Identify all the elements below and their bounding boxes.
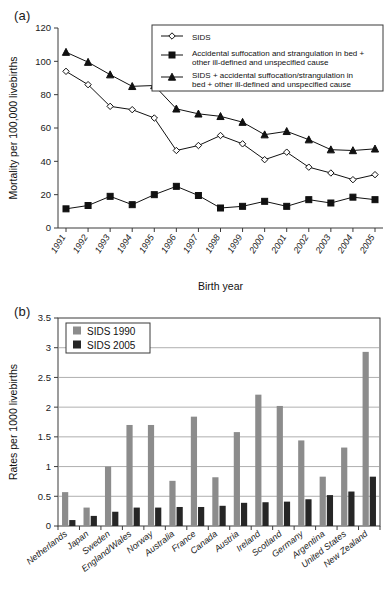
bar-sids-1990 bbox=[191, 417, 197, 526]
panel-a-xtick-label: 2003 bbox=[313, 233, 333, 256]
bar-group bbox=[62, 492, 75, 526]
data-point-marker bbox=[195, 142, 201, 148]
panel-a-xtick-label: 1997 bbox=[181, 232, 201, 255]
legend-item-label: Accidental suffocation and strangulation… bbox=[192, 49, 365, 58]
bar-sids-2005 bbox=[220, 506, 226, 526]
panel-a-xtick-label: 2002 bbox=[291, 233, 311, 256]
legend-item-label: SIDS 1990 bbox=[87, 326, 136, 337]
panel-a-xtick-label: 1996 bbox=[159, 233, 178, 255]
bar-sids-1990 bbox=[126, 425, 132, 526]
bar-sids-1990 bbox=[341, 448, 347, 526]
data-point-marker bbox=[63, 68, 69, 74]
data-point-marker bbox=[218, 205, 224, 211]
data-point-marker bbox=[328, 170, 334, 176]
bar-group bbox=[341, 448, 354, 526]
panel-b-ytick-label: 0 bbox=[46, 520, 51, 531]
bar-sids-2005 bbox=[112, 512, 118, 526]
bar-group bbox=[320, 477, 333, 526]
panel-b-ytick-label: 2 bbox=[46, 402, 51, 413]
data-point-marker bbox=[63, 206, 69, 212]
panel-a-ytick-label: 0 bbox=[46, 222, 51, 233]
bar-sids-2005 bbox=[305, 499, 311, 526]
data-point-marker bbox=[62, 48, 69, 55]
panel-a-xtick-label: 1993 bbox=[93, 233, 112, 255]
data-point-marker bbox=[195, 193, 201, 199]
bar-group bbox=[212, 477, 225, 526]
panel-a-xtick-label: 1994 bbox=[115, 233, 134, 255]
panel-a-xtick-label: 1992 bbox=[71, 233, 90, 255]
bar-sids-1990 bbox=[105, 467, 111, 526]
panel-a-label: (a) bbox=[14, 8, 31, 23]
bar-group bbox=[234, 432, 247, 526]
bar-sids-2005 bbox=[69, 520, 75, 526]
bar-sids-1990 bbox=[277, 406, 283, 526]
bar-sids-1990 bbox=[84, 508, 90, 526]
bar-sids-1990 bbox=[148, 425, 154, 526]
panel-a-xtick-label: 1991 bbox=[49, 233, 68, 255]
data-point-marker bbox=[350, 176, 356, 182]
panel-a-xtick-label: 2000 bbox=[247, 233, 267, 256]
data-point-marker bbox=[305, 136, 312, 143]
bar-group bbox=[277, 406, 290, 526]
bar-sids-1990 bbox=[234, 432, 240, 526]
bar-sids-2005 bbox=[241, 503, 247, 526]
panel-b-ytick-label: 1.5 bbox=[38, 431, 51, 442]
data-point-marker bbox=[306, 197, 312, 203]
data-point-marker bbox=[129, 106, 135, 112]
data-point-marker bbox=[240, 203, 246, 209]
data-point-marker bbox=[151, 115, 157, 121]
panel-a-xtick-label: 2001 bbox=[269, 233, 289, 256]
data-point-marker bbox=[173, 183, 179, 189]
data-point-marker bbox=[85, 203, 91, 209]
data-point-marker bbox=[284, 203, 290, 209]
bar-group bbox=[298, 440, 311, 526]
data-point-marker bbox=[107, 71, 114, 78]
bar-sids-2005 bbox=[327, 495, 333, 526]
figure-container: (a) 020406080100120Mortality per 100,000… bbox=[0, 0, 392, 602]
bar-group bbox=[191, 417, 204, 526]
data-point-marker bbox=[372, 171, 378, 177]
panel-b-ylabel: Rates per 1000 livebirths bbox=[7, 364, 19, 480]
panel-b-ytick-label: 1 bbox=[46, 461, 51, 472]
bar-sids-1990 bbox=[363, 352, 369, 526]
data-point-marker bbox=[262, 198, 268, 204]
panel-a-xtick-label: 1999 bbox=[225, 233, 244, 255]
panel-a-svg: 020406080100120Mortality per 100,000 liv… bbox=[0, 0, 392, 300]
panel-a-ytick-label: 40 bbox=[40, 156, 51, 167]
legend-item-label: bed + other ill-defined and unspecified … bbox=[192, 80, 352, 89]
data-point-marker bbox=[151, 192, 157, 198]
data-point-marker bbox=[169, 52, 175, 58]
bar-group bbox=[255, 395, 268, 526]
data-point-marker bbox=[350, 194, 356, 200]
data-point-marker bbox=[107, 193, 113, 199]
bar-sids-1990 bbox=[212, 477, 218, 526]
panel-b-ytick-label: 0.5 bbox=[38, 491, 51, 502]
data-point-marker bbox=[328, 200, 334, 206]
data-point-marker bbox=[284, 149, 290, 155]
panel-b-label: (b) bbox=[14, 304, 31, 319]
panel-b-ytick-label: 2.5 bbox=[38, 372, 51, 383]
legend-item-label: SIDS 2005 bbox=[87, 340, 136, 351]
bar-group bbox=[169, 481, 182, 526]
panel-a-xtick-label: 2005 bbox=[357, 232, 377, 256]
bar-sids-2005 bbox=[284, 502, 290, 526]
bar-sids-1990 bbox=[298, 440, 304, 526]
panel-a-xtick-label: 2004 bbox=[335, 233, 355, 256]
legend-item-label: SIDS bbox=[192, 33, 211, 42]
panel-a-ytick-label: 120 bbox=[35, 22, 51, 33]
legend-item-label: SIDS + accidental suffocation/strangulat… bbox=[192, 71, 353, 80]
panel-b-ytick-label: 3.5 bbox=[38, 312, 51, 323]
bar-sids-2005 bbox=[198, 507, 204, 526]
panel-b-legend: SIDS 1990SIDS 2005 bbox=[66, 323, 150, 353]
bar-sids-2005 bbox=[155, 508, 161, 526]
bar-sids-2005 bbox=[134, 508, 140, 526]
bar-sids-2005 bbox=[348, 492, 354, 526]
panel-a-ytick-label: 80 bbox=[40, 89, 51, 100]
panel-b-svg: 00.511.522.533.5Rates per 1000 livebirth… bbox=[0, 296, 392, 602]
data-point-marker bbox=[372, 197, 378, 203]
bar-sids-1990 bbox=[169, 481, 175, 526]
bar-sids-2005 bbox=[91, 516, 97, 526]
data-point-marker bbox=[217, 132, 223, 138]
panel-b-ytick-label: 3 bbox=[46, 342, 51, 353]
data-point-marker bbox=[306, 164, 312, 170]
